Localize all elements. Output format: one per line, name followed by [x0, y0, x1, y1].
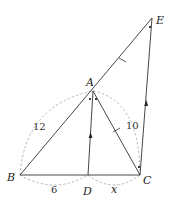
geometry-diagram: A B C D E 12 10 6 x — [0, 0, 174, 201]
segment-be — [20, 18, 152, 175]
angle-dot-bad-icon — [89, 98, 91, 100]
segment-ac — [93, 91, 140, 175]
parallel-arrow-ce-icon — [144, 100, 148, 106]
point-label-a: A — [85, 76, 94, 89]
measure-ac: 10 — [126, 120, 139, 131]
point-label-e: E — [155, 14, 164, 27]
point-label-d: D — [82, 185, 92, 198]
angle-dot-ace-icon — [138, 166, 140, 168]
measure-bd: 6 — [51, 184, 57, 195]
measure-ab: 12 — [33, 121, 46, 132]
measure-dc: x — [111, 183, 118, 196]
parallel-arrow-ad-icon — [89, 132, 93, 138]
point-label-c: C — [143, 174, 152, 187]
point-label-b: B — [6, 171, 15, 184]
angle-dot-dac-icon — [95, 98, 97, 100]
segment-ce — [140, 18, 152, 175]
tick-ae-icon — [119, 58, 126, 62]
angle-dot-aec-icon — [149, 26, 151, 28]
